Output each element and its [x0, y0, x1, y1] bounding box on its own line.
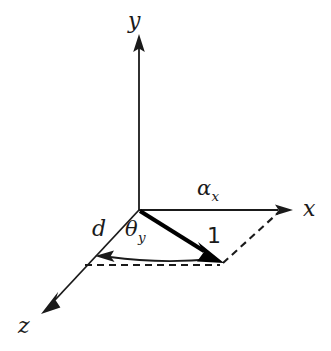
theta-y-arc-arrowhead	[95, 251, 115, 263]
distance-d-label: d	[92, 218, 106, 240]
x-axis-label: x	[303, 198, 315, 220]
theta-y-label: θy	[125, 219, 145, 240]
y-axis	[133, 34, 145, 210]
alpha-subscript: x	[212, 189, 220, 204]
theta-subscript: y	[138, 230, 146, 245]
alpha-symbol: α	[197, 176, 211, 200]
theta-y-angle-arc	[95, 251, 214, 263]
z-axis-label: z	[18, 315, 30, 337]
projection-to-x-axis-dashed	[223, 212, 279, 263]
vector-magnitude-label: 1	[207, 225, 221, 247]
coordinate-diagram-svg	[0, 0, 331, 351]
figure-canvas: y x z αx d θy 1	[0, 0, 331, 351]
theta-symbol: θ	[125, 217, 138, 241]
unit-vector-line	[140, 211, 204, 251]
x-axis	[139, 204, 293, 215]
alpha-x-label: αx	[197, 178, 219, 199]
y-axis-label: y	[128, 10, 140, 32]
z-axis-arrowhead	[41, 292, 60, 314]
